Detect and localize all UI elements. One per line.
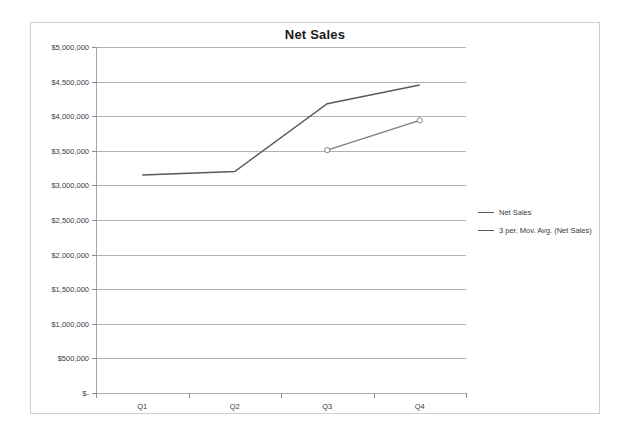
x-tick-label: Q1 (137, 402, 147, 411)
y-tick-label: $5,000,000 (51, 43, 89, 52)
y-tick-label: $4,500,000 (51, 77, 89, 86)
y-tick-label: $1,500,000 (51, 285, 89, 294)
y-tick-label: $4,000,000 (51, 112, 89, 121)
legend-item-net-sales[interactable]: Net Sales (478, 208, 596, 217)
chart-legend: Net Sales 3 per. Mov. Avg. (Net Sales) (478, 208, 596, 244)
y-tick-label: $2,500,000 (51, 216, 89, 225)
y-tick-label: $2,000,000 (51, 250, 89, 259)
y-tick-label: $3,000,000 (51, 181, 89, 190)
series-line (142, 85, 420, 175)
x-tick-label: Q2 (230, 402, 240, 411)
legend-line-icon (478, 230, 494, 231)
x-tick-mark (281, 393, 282, 398)
y-tick-label: $3,500,000 (51, 146, 89, 155)
data-point-marker (325, 148, 330, 153)
chart-container: Net Sales $5,000,000$4,500,000$4,000,000… (30, 22, 600, 414)
x-tick-mark (466, 393, 467, 398)
legend-line-icon (478, 212, 494, 213)
x-tick-mark (96, 393, 97, 398)
x-tick-mark (189, 393, 190, 398)
chart-title: Net Sales (31, 27, 599, 42)
series-line (327, 120, 420, 150)
y-tick-label: $500,000 (58, 354, 89, 363)
x-tick-label: Q3 (322, 402, 332, 411)
legend-item-moving-average[interactable]: 3 per. Mov. Avg. (Net Sales) (478, 226, 596, 235)
series-layer (96, 47, 466, 393)
y-tick-label: $1,000,000 (51, 319, 89, 328)
legend-item-label: Net Sales (499, 208, 532, 217)
data-point-marker (417, 118, 422, 123)
plot-area: $5,000,000$4,500,000$4,000,000$3,500,000… (96, 47, 466, 393)
x-tick-label: Q4 (415, 402, 425, 411)
x-tick-mark (374, 393, 375, 398)
legend-item-label: 3 per. Mov. Avg. (Net Sales) (499, 226, 592, 235)
y-tick-label: $- (82, 389, 89, 398)
